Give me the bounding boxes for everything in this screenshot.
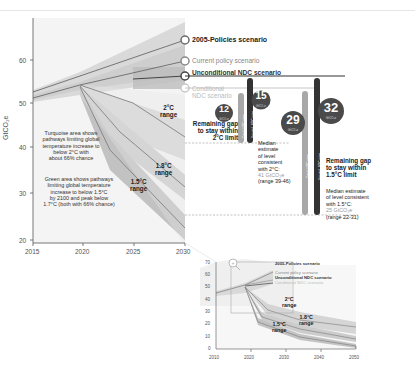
median-1-5c-label: Median estimate of level consistent with… xyxy=(326,188,369,220)
inset-scenario-2005-policies: 2005-Policies scenario xyxy=(275,261,320,266)
range-1-5c-label: 1.5°C range xyxy=(130,178,147,192)
median-2c-label: Median estimate of level consistent with… xyxy=(258,140,291,185)
x-tick-2020: 2020 xyxy=(75,248,89,255)
gap-line: Remaining gap xyxy=(190,120,238,127)
inset-y-tick-50: 50 xyxy=(205,283,210,290)
inset-scenario-cond: Conditional NDC scenario xyxy=(275,280,323,285)
inset-y-tick-60: 60 xyxy=(205,271,210,278)
bar-cond-ndc-2c-label: Cond. NDC case xyxy=(241,114,248,138)
gap-32-unit: GtCO₂e xyxy=(321,115,341,122)
gap-15-unit: GtCO₂e xyxy=(253,103,269,110)
inset-range-1-8c-label: 1.8°C range xyxy=(299,314,313,326)
gap-line: to stay within xyxy=(190,127,238,134)
gap-32-value: 32 xyxy=(321,101,341,114)
scenario-2005-policies-label: 2005-Policies scenario xyxy=(192,36,267,43)
inset-x-tick-2020: 2020 xyxy=(244,354,254,361)
inset-y-tick-20: 20 xyxy=(205,320,210,327)
y-tick-40: 40 xyxy=(19,144,26,151)
gap-line: to stay within xyxy=(326,164,371,171)
median-range: (range 39-46) xyxy=(258,178,291,184)
inset-y-tick-30: 30 xyxy=(205,308,210,315)
gap-line: 2°C limit xyxy=(190,134,238,141)
inset-x-tick-2010: 2010 xyxy=(209,354,219,361)
x-tick-2025: 2025 xyxy=(126,248,140,255)
y-tick-30: 30 xyxy=(19,190,26,197)
svg-text:+: + xyxy=(232,260,235,266)
bar-uncond-ndc-2c-label: Uncond. NDC case xyxy=(250,111,257,138)
remaining-gap-1-5c-label: Remaining gap to stay within 1.5°C limit xyxy=(326,157,371,179)
inset-range-line: range xyxy=(299,320,313,326)
green-area-note: Green area shows pathways limiting globa… xyxy=(38,176,120,207)
range-1-5c-line1: 1.5°C xyxy=(130,178,147,185)
inset-x-tick-2050: 2050 xyxy=(349,354,359,361)
range-2c-line1: 2°C xyxy=(160,104,177,111)
gap-15-value: 15 xyxy=(254,92,268,99)
note-line: limiting global temperature xyxy=(38,182,120,188)
turquoise-area-note: Turquoise area shows pathways limiting g… xyxy=(36,130,106,161)
inset-y-tick-70: 70 xyxy=(205,259,210,266)
median-range: (range 22-31) xyxy=(326,214,369,220)
x-tick-2015: 2015 xyxy=(25,248,39,255)
note-line: temperature increase to xyxy=(36,143,106,149)
scenario-unconditional-ndc-label: Unconditional NDC scenario xyxy=(192,69,281,76)
median-line: of level consistent xyxy=(326,194,369,200)
scenario-conditional-ndc-label-1: Conditional xyxy=(192,85,224,92)
inset-range-1-5c-label: 1.5°C range xyxy=(272,321,286,333)
range-1-8c-line2: range xyxy=(155,169,172,176)
range-2c-line2: range xyxy=(160,111,177,118)
inset-y-tick-10: 10 xyxy=(205,333,210,340)
scenario-conditional-ndc-label-2: NDC scenario xyxy=(192,92,232,99)
note-line: about 66% chance xyxy=(36,155,106,161)
gap-line: Remaining gap xyxy=(326,157,371,164)
gap-line: 1.5°C limit xyxy=(326,171,371,178)
x-tick-2030: 2030 xyxy=(176,248,190,255)
gap-29-value: 29 xyxy=(284,114,302,126)
inset-x-tick-2030: 2030 xyxy=(279,354,289,361)
inset-range-2c-label: 2°C range xyxy=(282,296,296,308)
range-1-8c-line1: 1.8°C xyxy=(155,162,172,169)
inset-range-line: range xyxy=(282,302,296,308)
y-tick-50: 50 xyxy=(19,100,26,107)
gap-12-value: 12 xyxy=(218,106,230,113)
inset-y-tick-0: 0 xyxy=(208,345,211,352)
scenario-current-policy-label: Current policy scenario xyxy=(192,57,259,64)
inset-y-tick-40: 40 xyxy=(205,296,210,303)
bar-uncond-ndc-1-5c-label: Uncond. NDC case xyxy=(317,153,324,180)
range-1-5c-line2: range xyxy=(130,185,147,192)
inset-x-tick-2040: 2040 xyxy=(314,354,324,361)
range-2c-label: 2°C range xyxy=(160,104,177,118)
note-line: 1.7°C (both with 66% chance) xyxy=(38,201,120,207)
note-line: increase to below 1.5°C xyxy=(38,189,120,195)
remaining-gap-2c-label: Remaining gap to stay within 2°C limit xyxy=(190,120,238,142)
y-axis-label: GtCO₂e xyxy=(2,116,9,141)
note-line: pathways limiting global xyxy=(36,136,106,142)
y-tick-20: 20 xyxy=(19,237,26,244)
gap-29-unit: GtCO₂e xyxy=(284,127,302,134)
inset-range-line: range xyxy=(272,327,286,333)
y-tick-60: 60 xyxy=(19,57,26,64)
range-1-8c-label: 1.8°C range xyxy=(155,162,172,176)
bar-cond-ndc-1-5c-label: Cond. NDC case xyxy=(305,154,312,178)
